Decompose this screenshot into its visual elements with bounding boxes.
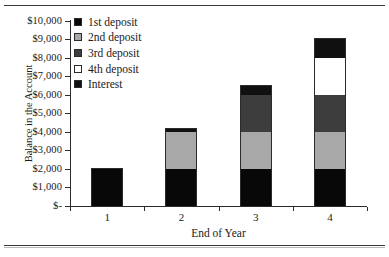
y-axis-tick bbox=[65, 95, 70, 96]
legend-item[interactable]: 3rd deposit bbox=[74, 45, 141, 61]
y-axis-tick-label: $3,000 bbox=[33, 145, 62, 156]
legend-item-label: 1st deposit bbox=[88, 16, 138, 28]
bar-segment bbox=[240, 85, 272, 95]
x-axis-tick bbox=[70, 207, 71, 211]
x-axis-tick bbox=[219, 207, 220, 211]
legend-item-label: 3rd deposit bbox=[88, 47, 139, 59]
bar-segment bbox=[314, 95, 346, 132]
x-axis-tick bbox=[144, 207, 145, 211]
y-axis-title: Balance in the Account bbox=[23, 34, 34, 194]
bar-segment bbox=[314, 169, 346, 206]
y-axis-tick-label: $10,000 bbox=[27, 16, 62, 27]
y-axis-tick-label: $1,000 bbox=[33, 182, 62, 193]
bar-segment bbox=[91, 168, 123, 169]
y-axis-tick bbox=[65, 76, 70, 77]
y-axis-tick-label: $9,000 bbox=[33, 34, 62, 45]
y-axis-line bbox=[70, 20, 71, 207]
y-axis-tick-label: $6,000 bbox=[33, 90, 62, 101]
legend-item[interactable]: 2nd deposit bbox=[74, 30, 141, 46]
y-axis-tick bbox=[65, 21, 70, 22]
figure-container: $-$1,000$2,000$3,000$4,000$5,000$6,000$7… bbox=[0, 0, 389, 257]
legend-swatch-icon bbox=[74, 80, 82, 88]
y-axis-tick bbox=[65, 132, 70, 133]
y-axis-tick-label: $- bbox=[53, 201, 62, 212]
y-axis-tick bbox=[65, 150, 70, 151]
bar-segment bbox=[314, 38, 346, 58]
x-axis-tick bbox=[367, 207, 368, 211]
legend-item[interactable]: 1st deposit bbox=[74, 14, 141, 30]
bar-segment bbox=[314, 132, 346, 169]
bar-segment bbox=[314, 58, 346, 95]
legend: 1st deposit2nd deposit3rd deposit4th dep… bbox=[74, 14, 141, 92]
legend-swatch-icon bbox=[74, 33, 82, 41]
y-axis-tick-label: $7,000 bbox=[33, 71, 62, 82]
legend-item-label: Interest bbox=[88, 78, 122, 90]
legend-item-label: 4th deposit bbox=[88, 63, 139, 75]
bar-segment bbox=[240, 95, 272, 132]
y-axis-tick-label: $2,000 bbox=[33, 164, 62, 175]
bar-segment bbox=[165, 128, 197, 132]
bar-segment bbox=[165, 132, 197, 169]
bar-segment bbox=[240, 132, 272, 169]
y-axis-tick bbox=[65, 113, 70, 114]
bar-segment bbox=[91, 169, 123, 206]
bar-group bbox=[240, 0, 272, 257]
legend-swatch-icon bbox=[74, 18, 82, 26]
y-axis-tick bbox=[65, 169, 70, 170]
bar-group bbox=[165, 0, 197, 257]
legend-item[interactable]: Interest bbox=[74, 76, 141, 92]
y-axis-tick bbox=[65, 58, 70, 59]
y-axis-tick-label: $8,000 bbox=[33, 53, 62, 64]
legend-swatch-icon bbox=[74, 65, 82, 73]
y-axis-tick-label: $4,000 bbox=[33, 127, 62, 138]
y-axis-tick bbox=[65, 39, 70, 40]
bar-segment bbox=[240, 169, 272, 206]
legend-item-label: 2nd deposit bbox=[88, 31, 141, 43]
bar-segment bbox=[165, 169, 197, 206]
x-axis-tick bbox=[293, 207, 294, 211]
bar-group bbox=[314, 0, 346, 257]
x-axis-title: End of Year bbox=[70, 227, 367, 240]
legend-swatch-icon bbox=[74, 49, 82, 57]
y-axis-tick-label: $5,000 bbox=[33, 108, 62, 119]
plot-area: $-$1,000$2,000$3,000$4,000$5,000$6,000$7… bbox=[0, 0, 389, 257]
legend-item[interactable]: 4th deposit bbox=[74, 61, 141, 77]
y-axis-tick bbox=[65, 187, 70, 188]
